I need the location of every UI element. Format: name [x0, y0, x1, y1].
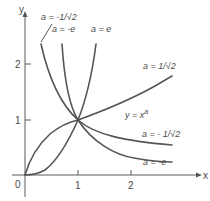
label-leader-line	[41, 24, 52, 42]
axes	[12, 11, 202, 197]
label-a-e-top: a = e	[91, 24, 111, 34]
label-a-neg-e-top: a = -e	[52, 24, 75, 34]
label-a-neg-e-right: a = -e	[143, 157, 166, 167]
x-axis-arrow-icon	[196, 173, 202, 178]
label-equation: y = xa	[124, 108, 148, 120]
y-axis-label: y	[19, 4, 24, 15]
x-axis-label: x	[203, 170, 208, 181]
label-a-neg-inv-sqrt2-top: a = -1/√2	[41, 12, 77, 22]
power-function-chart: y x 0 1 2 1 2 a = -1/√2 a = -e a = e a =…	[0, 0, 210, 201]
y-tick-label-2: 2	[15, 59, 21, 70]
label-a-neg-inv-sqrt2-right: a = - 1/√2	[142, 129, 180, 139]
origin-label: 0	[15, 179, 21, 190]
x-tick-label-1: 1	[75, 180, 81, 191]
curve-a-e	[25, 44, 96, 175]
label-a-inv-sqrt2: a = 1/√2	[143, 61, 176, 71]
x-tick-label-2: 2	[128, 180, 134, 191]
equation-exponent: a	[144, 108, 148, 115]
y-tick-label-1: 1	[15, 115, 21, 126]
equation-base: y = x	[124, 110, 145, 120]
